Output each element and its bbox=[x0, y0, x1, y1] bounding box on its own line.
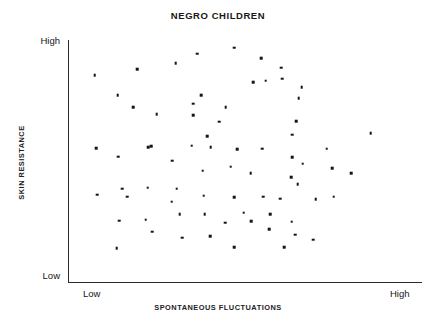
data-point bbox=[290, 176, 293, 179]
data-point bbox=[252, 81, 255, 84]
data-point bbox=[121, 187, 124, 190]
data-point bbox=[136, 68, 139, 71]
data-point bbox=[269, 213, 272, 216]
data-point bbox=[236, 148, 239, 151]
data-point bbox=[175, 188, 178, 191]
data-point bbox=[94, 74, 97, 77]
data-point bbox=[170, 200, 173, 203]
data-point bbox=[281, 77, 284, 80]
data-point bbox=[218, 120, 221, 123]
x-axis-title: SPONTANEOUS FLUCTUATIONS bbox=[0, 303, 436, 312]
data-point bbox=[315, 198, 318, 201]
data-point bbox=[181, 236, 184, 239]
data-point bbox=[262, 196, 265, 199]
data-point bbox=[332, 196, 335, 199]
data-point bbox=[298, 97, 301, 100]
data-point bbox=[233, 246, 236, 249]
data-point bbox=[242, 211, 245, 214]
data-point bbox=[300, 86, 303, 89]
data-point bbox=[132, 106, 135, 109]
data-point bbox=[151, 231, 154, 234]
data-point bbox=[117, 155, 120, 158]
data-point bbox=[249, 172, 252, 175]
data-point bbox=[233, 46, 236, 49]
data-point bbox=[296, 183, 299, 186]
data-point bbox=[250, 220, 253, 223]
data-point bbox=[150, 145, 153, 148]
data-point bbox=[291, 133, 294, 136]
x-axis-line bbox=[68, 282, 422, 283]
data-point bbox=[126, 195, 129, 198]
data-point bbox=[290, 220, 293, 223]
data-point bbox=[118, 219, 121, 222]
data-point bbox=[230, 165, 233, 168]
y-axis-tick-low: Low bbox=[43, 270, 60, 281]
data-point bbox=[325, 147, 328, 150]
data-point bbox=[279, 197, 282, 200]
data-point bbox=[264, 80, 267, 83]
data-point bbox=[146, 186, 149, 189]
data-point bbox=[312, 238, 315, 241]
data-point bbox=[225, 106, 228, 109]
data-point bbox=[260, 57, 263, 60]
data-point bbox=[192, 114, 195, 117]
data-point bbox=[209, 146, 212, 149]
data-point bbox=[283, 246, 286, 249]
data-point bbox=[224, 221, 227, 224]
data-point bbox=[202, 194, 205, 197]
data-point bbox=[171, 159, 174, 162]
data-point bbox=[156, 113, 159, 116]
data-point bbox=[280, 66, 283, 69]
x-axis-tick-high: High bbox=[390, 288, 410, 299]
data-point bbox=[196, 52, 199, 55]
chart-title: NEGRO CHILDREN bbox=[0, 10, 436, 21]
data-point bbox=[145, 218, 148, 221]
data-point bbox=[174, 62, 177, 65]
data-point bbox=[295, 120, 298, 123]
plot-area bbox=[68, 40, 422, 282]
data-point bbox=[206, 135, 209, 138]
data-point bbox=[369, 132, 372, 135]
y-axis-title: SKIN RESISTANCE bbox=[17, 103, 26, 223]
data-point bbox=[200, 94, 203, 97]
data-point bbox=[301, 163, 304, 166]
data-point bbox=[116, 94, 119, 97]
data-point bbox=[96, 194, 99, 197]
data-point bbox=[95, 147, 98, 150]
data-point bbox=[291, 156, 294, 159]
data-point bbox=[202, 169, 205, 172]
data-point bbox=[261, 148, 264, 151]
data-point bbox=[147, 146, 150, 149]
data-point bbox=[209, 235, 212, 238]
data-point bbox=[350, 172, 353, 175]
data-point bbox=[179, 213, 182, 216]
x-axis-tick-low: Low bbox=[83, 288, 100, 299]
data-point bbox=[294, 234, 297, 237]
data-point bbox=[331, 167, 334, 170]
data-point bbox=[192, 103, 195, 106]
data-point bbox=[268, 228, 271, 231]
y-axis-tick-high: High bbox=[40, 35, 60, 46]
scatter-plot-figure: NEGRO CHILDREN High Low Low High SKIN RE… bbox=[0, 0, 436, 325]
data-point bbox=[233, 196, 236, 199]
data-point bbox=[190, 144, 193, 147]
data-point bbox=[203, 213, 206, 216]
data-point bbox=[116, 247, 119, 250]
